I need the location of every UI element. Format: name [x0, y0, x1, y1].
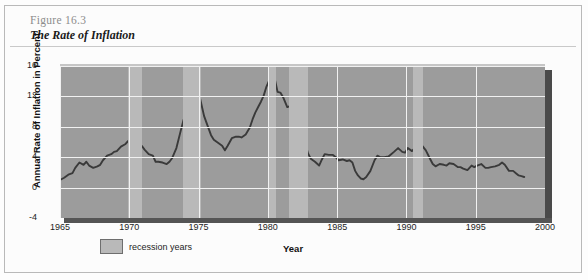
- gridline-vertical: [406, 66, 407, 218]
- gridline-horizontal: [60, 66, 545, 67]
- y-tick-label: -4: [11, 212, 37, 222]
- x-tick-label: 1990: [386, 222, 426, 232]
- gridline-horizontal: [60, 96, 545, 97]
- recession-legend-swatch: [100, 239, 123, 254]
- x-tick-label: 2000: [525, 222, 565, 232]
- recession-band: [413, 66, 423, 218]
- x-tick-label: 1980: [248, 222, 288, 232]
- inflation-line-chart: -40481216 196519701975198019851990199520…: [0, 0, 588, 280]
- gridline-vertical: [476, 66, 477, 218]
- gridline-vertical: [337, 66, 338, 218]
- x-tick-label: 1985: [317, 222, 357, 232]
- gridline-horizontal: [60, 188, 545, 189]
- recession-band: [289, 66, 308, 218]
- x-tick-label: 1965: [40, 222, 80, 232]
- chart-legend: recession years: [100, 239, 192, 254]
- figure-page: Figure 16.3 The Rate of Inflation -40481…: [0, 0, 588, 280]
- gridline-horizontal: [60, 127, 545, 128]
- gridline-vertical: [268, 66, 269, 218]
- recession-band: [268, 66, 276, 218]
- x-tick-label: 1975: [179, 222, 219, 232]
- gridline-vertical: [60, 66, 61, 218]
- x-tick-label: 1995: [456, 222, 496, 232]
- plot-shadow-right: [545, 70, 552, 222]
- recession-legend-label: recession years: [129, 242, 192, 252]
- y-axis-label: Annual Rate of Inflation in Percent: [31, 31, 42, 191]
- x-axis-label: Year: [283, 243, 303, 254]
- gridline-horizontal: [60, 157, 545, 158]
- gridline-vertical: [199, 66, 200, 218]
- plot-area: [60, 66, 545, 218]
- x-tick-label: 1970: [109, 222, 149, 232]
- gridline-vertical: [129, 66, 130, 218]
